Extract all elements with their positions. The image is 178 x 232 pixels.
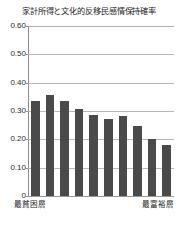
bar (119, 116, 128, 196)
bar (46, 95, 55, 196)
plot-area (28, 26, 174, 196)
gridline (28, 83, 174, 84)
bar (75, 109, 84, 196)
y-axis-tick-label: 0 (1, 192, 26, 200)
y-axis-tick-label: 0.30 (1, 107, 26, 115)
bar (133, 126, 142, 196)
x-axis-label-richest: 最富裕層 (142, 200, 174, 209)
gridline (28, 26, 174, 27)
y-axis-tick-label: 0.60 (1, 22, 26, 30)
bar (31, 101, 40, 196)
y-axis-tick-label: 0.50 (1, 50, 26, 58)
y-axis-tick-label: 0.10 (1, 164, 26, 172)
bar (162, 145, 171, 196)
bar (60, 101, 69, 196)
y-axis-tick-label: 0.20 (1, 135, 26, 143)
y-axis-tick-label: 0.40 (1, 79, 26, 87)
gridline (28, 54, 174, 55)
y-axis-tick-labels: 00.100.200.300.400.500.60 (0, 0, 26, 232)
bar (148, 139, 157, 196)
x-axis-label-poorest: 最貧困層 (14, 200, 46, 209)
chart-container: 家計所得と文化的反移民感情保持確率 00.100.200.300.400.500… (0, 0, 178, 232)
x-axis-line (28, 196, 174, 197)
bar (89, 115, 98, 196)
chart-title: 家計所得と文化的反移民感情保持確率 (0, 7, 178, 17)
bar (104, 119, 113, 196)
